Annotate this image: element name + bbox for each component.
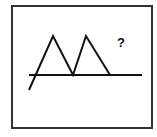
diagram-canvas	[0, 0, 157, 137]
zigzag-peaks-line	[29, 36, 110, 90]
question-mark: ?	[117, 35, 125, 50]
